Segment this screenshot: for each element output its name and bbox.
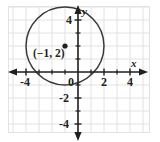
x-tick-label-4: 4 [127,76,133,88]
y-tick-label-4: 4 [66,14,72,26]
grid-lines [8,7,150,132]
origin-label: 0 [68,76,74,88]
coordinate-plane-svg [0,0,160,142]
center-point-label: (−1, 2) [33,48,64,60]
grid-frame [9,7,150,133]
y-tick-label-neg4: -4 [59,118,69,130]
x-tick-label-2: 2 [101,76,107,88]
x-axis-label: x [131,58,137,69]
graph-figure: -4 2 4 4 -2 -4 0 y x (−1, 2) [0,0,160,142]
x-tick-label-neg4: -4 [20,76,30,88]
y-axis [74,5,81,141]
y-tick-label-neg2: -2 [59,92,69,104]
y-axis-bottom-arrow [74,132,81,141]
y-axis-label: y [82,6,87,17]
